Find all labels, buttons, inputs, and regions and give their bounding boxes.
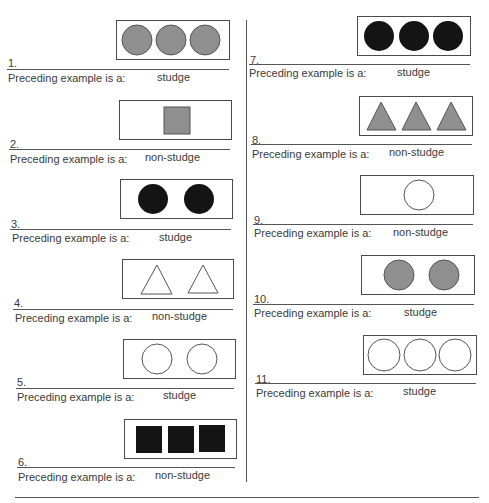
answer-value: non-studge (145, 151, 200, 163)
answer-value: studge (404, 306, 437, 318)
example-figure-box (361, 255, 475, 295)
two-white-triangles-icon (124, 261, 232, 297)
example-figure-box (122, 259, 234, 299)
answer-rule (16, 388, 234, 389)
answer-rule (255, 383, 476, 384)
answer-prompt: Preceding example is a: (249, 67, 366, 79)
example-number: 4. (14, 297, 23, 309)
answer-rule (249, 64, 470, 65)
column-divider (246, 20, 247, 482)
page-bottom-rule (15, 497, 479, 498)
answer-prompt: Preceding example is a: (18, 471, 135, 483)
answer-rule (9, 149, 230, 150)
answer-value: non-studge (155, 469, 210, 481)
example-item-11: 11. Preceding example is a: studge (0, 0, 230, 80)
gray-square-icon (122, 102, 230, 138)
answer-value: studge (397, 66, 430, 78)
answer-prompt: Preceding example is a: (12, 232, 129, 244)
two-gray-circles-icon (364, 257, 472, 293)
two-black-circles-icon (123, 181, 231, 217)
answer-prompt: Preceding example is a: (254, 307, 371, 319)
answer-rule (17, 467, 235, 468)
answer-prompt: Preceding example is a: (256, 387, 373, 399)
white-circle-icon (363, 177, 471, 213)
example-figure-box (357, 16, 471, 56)
answer-rule (10, 229, 231, 230)
answer-value: non-studge (389, 146, 444, 158)
three-gray-triangles-icon (362, 98, 470, 134)
example-figure-box (124, 419, 237, 459)
answer-prompt: Preceding example is a: (252, 148, 369, 160)
answer-value: studge (159, 231, 192, 243)
example-figure-box (363, 335, 477, 375)
example-figure-box (119, 100, 232, 140)
answer-prompt: Preceding example is a: (254, 227, 371, 239)
answer-rule (253, 224, 473, 225)
answer-prompt: Preceding example is a: (17, 391, 134, 403)
answer-rule (253, 304, 474, 305)
answer-prompt: Preceding example is a: (15, 312, 132, 324)
example-figure-box (359, 96, 473, 136)
example-figure-box (120, 179, 233, 219)
example-figure-box (360, 175, 474, 215)
answer-value: non-studge (152, 310, 207, 322)
three-white-circles-icon (366, 337, 474, 373)
answer-value: non-studge (393, 226, 448, 238)
example-number: 5. (17, 376, 26, 388)
three-black-squares-icon (127, 421, 235, 457)
answer-prompt: Preceding example is a: (10, 153, 127, 165)
answer-value: studge (403, 385, 436, 397)
three-black-circles-icon (360, 18, 468, 54)
example-figure-box (123, 339, 236, 379)
two-white-circles-icon (126, 341, 234, 377)
answer-value: studge (163, 389, 196, 401)
answer-rule (251, 144, 472, 145)
